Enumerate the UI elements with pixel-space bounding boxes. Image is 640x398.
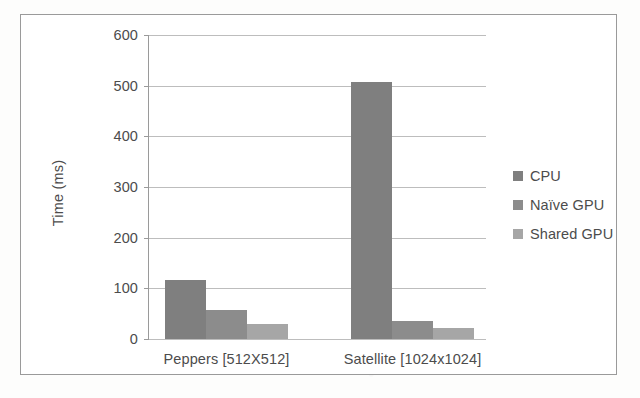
bar-satellite-shared-gpu: [433, 328, 474, 339]
legend-swatch-naive-gpu: [513, 200, 523, 210]
legend-label-naive-gpu: Naïve GPU: [530, 197, 604, 213]
chart-legend: CPU Naïve GPU Shared GPU: [513, 161, 613, 248]
bar-peppers-cpu: [165, 280, 206, 339]
y-tick-mark-200: [144, 238, 149, 239]
y-tick-mark-300: [144, 187, 149, 188]
legend-label-shared-gpu: Shared GPU: [530, 226, 613, 242]
legend-swatch-shared-gpu: [513, 229, 523, 239]
bar-satellite-cpu: [351, 82, 392, 339]
legend-item-cpu: CPU: [513, 161, 613, 190]
y-axis-title: Time (ms): [50, 160, 66, 227]
plot-area: 0100200300400500600 Peppers [512X512]Sat…: [149, 35, 486, 339]
y-tick-label-100: 100: [114, 280, 139, 296]
legend-item-shared-gpu: Shared GPU: [513, 219, 613, 248]
legend-label-cpu: CPU: [530, 168, 561, 184]
gridline-400: [149, 136, 486, 137]
y-tick-mark-400: [144, 136, 149, 137]
y-tick-label-200: 200: [114, 230, 139, 246]
legend-swatch-cpu: [513, 171, 523, 181]
chart-frame: Time (ms) 0100200300400500600 Peppers [5…: [20, 14, 617, 375]
y-tick-label-600: 600: [114, 27, 139, 43]
y-tick-label-300: 300: [114, 179, 139, 195]
y-tick-label-500: 500: [114, 78, 139, 94]
gridline-200: [149, 238, 486, 239]
gridline-600: [149, 35, 486, 36]
y-tick-mark-0: [144, 339, 149, 340]
legend-item-naive-gpu: Naïve GPU: [513, 190, 613, 219]
gridline-500: [149, 86, 486, 87]
bar-peppers-shared-gpu: [247, 324, 288, 339]
category-label-1: Peppers [512X512]: [164, 351, 290, 367]
y-tick-label-400: 400: [114, 128, 139, 144]
y-tick-mark-600: [144, 35, 149, 36]
y-tick-mark-500: [144, 86, 149, 87]
category-label-2: Satellite [1024x1024]: [344, 351, 482, 367]
gridline-300: [149, 187, 486, 188]
gridline-0: [149, 339, 486, 340]
y-tick-mark-100: [144, 288, 149, 289]
figure-page: Time (ms) 0100200300400500600 Peppers [5…: [0, 0, 640, 398]
bar-peppers-na-ve-gpu: [206, 310, 247, 339]
y-tick-label-0: 0: [130, 331, 138, 347]
bar-satellite-na-ve-gpu: [392, 321, 433, 339]
